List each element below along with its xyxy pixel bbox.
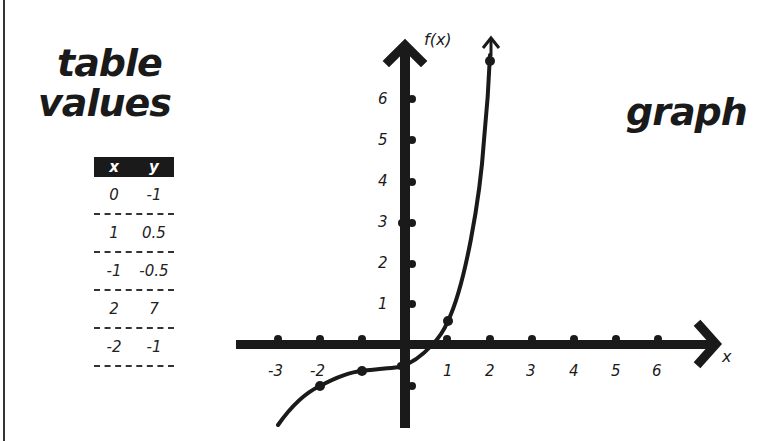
- y-tick-label: 2: [378, 254, 388, 272]
- x-axis-label: x: [721, 347, 732, 366]
- x-tick-label: 6: [652, 362, 662, 380]
- x-tick-label: 4: [569, 362, 579, 380]
- graph-plot: -3 -2 1 2 3 4 5 6 1 2 3 4 5 6 x f(x): [0, 0, 772, 441]
- y-tick-label: 4: [378, 172, 388, 190]
- x-tick-label: -3: [268, 362, 283, 380]
- y-axis: [389, 45, 421, 428]
- x-tick-label: 1: [443, 362, 453, 380]
- y-tick-label: 6: [378, 90, 388, 108]
- y-axis-label: f(x): [424, 30, 452, 49]
- y-tick-label: 1: [378, 295, 388, 313]
- y-tick-label: 5: [378, 131, 388, 149]
- x-tick-label: 5: [611, 362, 621, 380]
- x-tick-label: -2: [310, 362, 325, 380]
- point-2: [485, 56, 495, 66]
- point-1: [443, 316, 453, 326]
- y-tick-label: 3: [378, 213, 388, 231]
- x-tick-label: 3: [526, 362, 536, 380]
- point-neg1: [357, 366, 367, 376]
- point-neg2: [315, 381, 325, 391]
- x-axis: [236, 326, 716, 362]
- point-0: [397, 362, 405, 370]
- x-tick-label: 2: [485, 362, 495, 380]
